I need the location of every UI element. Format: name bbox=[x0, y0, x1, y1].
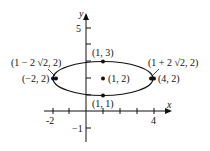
label-top-point: (1, 3) bbox=[92, 47, 114, 59]
label-left-vertex: (−2, 2) bbox=[22, 73, 49, 85]
tick-label-y-5: 5 bbox=[76, 23, 81, 34]
tick-label-x-neg2: -2 bbox=[46, 115, 54, 126]
point-vertex-right bbox=[152, 77, 156, 81]
label-right-vertex: (4, 2) bbox=[158, 73, 180, 85]
y-axis-label: y bbox=[78, 8, 84, 19]
point-center bbox=[101, 77, 105, 81]
point-focus-left bbox=[54, 77, 58, 81]
y-axis-arrow-icon bbox=[83, 13, 89, 20]
label-center-point: (1, 2) bbox=[108, 73, 130, 85]
label-right-focus: (1 + 2 √2, 2) bbox=[148, 57, 198, 69]
point-bottom bbox=[101, 94, 105, 98]
point-top bbox=[101, 60, 105, 64]
x-axis-label: x bbox=[166, 99, 172, 110]
label-bottom-point: (1, 1) bbox=[92, 98, 114, 110]
label-left-focus: (1 − 2 √2, 2) bbox=[11, 57, 61, 69]
tick-label-x-4: 4 bbox=[151, 115, 156, 126]
ellipse-diagram: y x 5 −1 -2 4 (1, 3) (1, 2) (1, 1) (−2, … bbox=[0, 0, 210, 151]
y-ticks bbox=[86, 28, 91, 128]
tick-label-y-neg1: −1 bbox=[72, 123, 83, 134]
